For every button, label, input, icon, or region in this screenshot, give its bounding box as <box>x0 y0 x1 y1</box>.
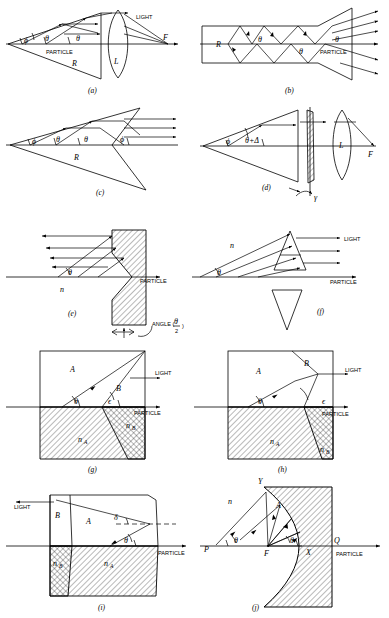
label-e-n: n <box>60 285 64 294</box>
label-i-nB-n: n <box>53 559 57 568</box>
zig-b-3 <box>228 26 257 63</box>
label-f-n: n <box>230 241 234 250</box>
ray-a-6 <box>62 24 98 33</box>
panel-g: A B θ ϵ LIGHT PARTICLE n A n B (g) <box>6 351 172 474</box>
ray-i-2 <box>56 500 150 524</box>
label-i-B: B <box>55 511 60 520</box>
ray-f-1 <box>200 234 290 277</box>
ray-a-2 <box>46 18 86 44</box>
upper-box-h <box>228 351 333 407</box>
rayhead-j-5 <box>251 530 256 535</box>
ray-j-1 <box>266 492 268 546</box>
label-e-theta: θ <box>68 268 72 277</box>
label-e-angle-text: ANGLE ( <box>152 321 175 327</box>
tick-j-2 <box>296 540 298 546</box>
label-a-F: F <box>162 33 168 42</box>
label-d-F: F <box>367 150 373 159</box>
label-j-F: F <box>263 549 269 558</box>
label-h-theta: θ <box>258 397 262 406</box>
caption-e: (e) <box>68 309 77 318</box>
label-j-n: n <box>228 497 232 506</box>
rotation-arrow-d <box>289 188 300 192</box>
label-b-theta-3: θ <box>335 35 339 44</box>
panel-f: n θ LIGHT PARTICLE (f) <box>192 231 361 330</box>
ray-h-2 <box>295 374 318 381</box>
caption-j: (j) <box>252 603 260 612</box>
label-f-light: LIGHT <box>344 236 361 242</box>
refl-j-2 <box>240 505 280 540</box>
exit-b-1 <box>332 11 378 26</box>
tick-a-1 <box>20 38 22 44</box>
label-d-L: L <box>338 141 344 150</box>
tick-j-1 <box>226 540 228 546</box>
pipe-upper-b <box>202 8 352 26</box>
label-j-theta-1: θ <box>234 536 238 545</box>
panel-b: R θ θ θ PARTICLE (b) <box>200 8 378 95</box>
label-a-phi: ϕ <box>24 36 28 45</box>
label-g-theta: θ <box>74 397 78 406</box>
label-h-light: LIGHT <box>345 367 362 373</box>
label-g-nB-n: n <box>126 421 130 430</box>
label-a-light: LIGHT <box>136 14 153 20</box>
rotating-wedge-d <box>307 110 314 183</box>
pipe-lower-b <box>202 63 352 80</box>
label-b-particle: PARTICLE <box>320 49 347 55</box>
figure-optical-geometries: ϕ θ θ PARTICLE R L LIGHT F (a) R θ <box>0 0 389 618</box>
label-j-P: P <box>203 545 209 554</box>
ray-e-in-2 <box>78 248 116 277</box>
label-c-R: R <box>73 153 79 162</box>
ray-j-2 <box>268 505 280 546</box>
leader-e <box>138 326 152 336</box>
caption-i: (i) <box>98 603 106 612</box>
label-a-R: R <box>71 59 77 68</box>
label-j-particle: PARTICLE <box>336 551 363 557</box>
label-g-epsilon: ϵ <box>108 397 112 406</box>
tick-h-1 <box>262 400 264 407</box>
label-i-nA-sub: A <box>109 563 114 569</box>
cone-lower-c <box>10 145 146 190</box>
refl-j-3 <box>268 518 292 546</box>
label-h-particle: PARTICLE <box>322 411 349 417</box>
ray-f-4 <box>258 268 300 277</box>
tick-a-3 <box>68 37 70 44</box>
caption-c: (c) <box>96 188 105 197</box>
label-j-Y: Y <box>258 477 264 486</box>
label-e-angle: ANGLE ( θ 2 ) <box>152 317 184 334</box>
label-g-particle: PARTICLE <box>134 410 161 416</box>
label-g-nA-n: n <box>78 435 82 444</box>
tick-i-1 <box>134 540 136 546</box>
label-e-particle: PARTICLE <box>140 278 167 284</box>
label-b-theta-1: θ <box>258 35 262 44</box>
label-g-A: A <box>69 365 75 374</box>
label-i-delta: δ <box>114 513 118 522</box>
label-h-B: B <box>304 359 309 368</box>
rayhead-h-1 <box>272 394 278 398</box>
label-a-theta-2: θ <box>76 34 80 43</box>
tick-d-2 <box>262 139 264 146</box>
label-a-L: L <box>113 57 119 66</box>
label-f-particle: PARTICLE <box>330 279 357 285</box>
label-i-light: LIGHT <box>14 504 31 510</box>
tick-g-2 <box>118 400 120 407</box>
prism-up-f <box>274 231 306 270</box>
label-a-particle: PARTICLE <box>46 49 73 55</box>
label-f-theta: θ <box>217 268 221 277</box>
label-j-theta-2: θ <box>290 536 294 545</box>
boundary-b-i <box>70 495 72 546</box>
tick-g-1 <box>78 400 80 407</box>
caption-f: (f) <box>317 307 325 316</box>
panel-a: ϕ θ θ PARTICLE R L LIGHT F (a) <box>6 10 178 95</box>
label-e-angle-num: θ <box>174 317 178 326</box>
arc-h-eps <box>300 388 308 400</box>
refl-j-1 <box>216 492 266 545</box>
panel-h: A B θ ϵ LIGHT PARTICLE n A n B (h) <box>194 351 362 474</box>
caption-d: (d) <box>262 183 271 192</box>
label-d-gamma: γ <box>314 193 318 202</box>
label-j-A: A <box>275 501 281 510</box>
zig-b-1 <box>252 26 332 44</box>
tick-c-4 <box>127 138 129 145</box>
panel-e: θ n PARTICLE ANGLE ( θ 2 ) (e) <box>6 230 184 338</box>
caption-g: (g) <box>88 465 97 474</box>
rayhead-b-1 <box>246 31 250 36</box>
point-F-j <box>267 545 269 547</box>
